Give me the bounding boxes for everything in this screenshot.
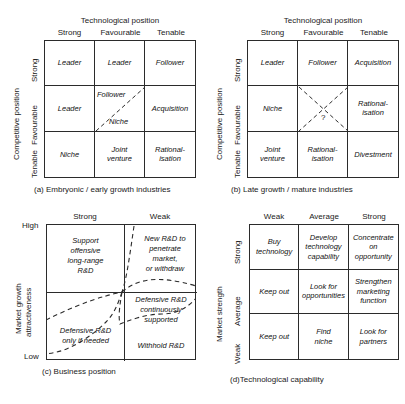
panel-d-cell-2-2: Look for partners bbox=[349, 314, 398, 359]
panel-c-band-line-0: Defensive R&D bbox=[125, 295, 197, 305]
panel-b-row-header-0: Strong bbox=[233, 58, 242, 82]
panel-a-col-header-0: Strong bbox=[44, 28, 95, 37]
panel-d-cell-2-0: Keep out bbox=[250, 314, 299, 359]
panel-c-bl-line-1: only if needed bbox=[47, 336, 124, 346]
panel-c-tl-line-1: offensive bbox=[47, 246, 124, 256]
panel-b-row-header-1: Favourable bbox=[233, 105, 242, 145]
panel-c-band-line-1: continuously bbox=[125, 305, 197, 315]
panel-a-x-axis-title: Technological position bbox=[44, 16, 196, 25]
panel-b-cell-2-1: Rational- isation bbox=[298, 132, 348, 177]
panel-c-tr-line-3: or withdraw bbox=[133, 264, 197, 274]
panel-a-cell-2-1: Joint venture bbox=[95, 132, 145, 177]
panel-d-row-header-0: Strong bbox=[233, 240, 242, 264]
panel-a-cell-2-0: Niche bbox=[45, 132, 95, 177]
panel-d-cell-0-2: Concentrate on opportunity bbox=[349, 225, 398, 270]
panel-d-col-header-1: Average bbox=[299, 212, 349, 221]
panel-a-split-lower-label: Niche bbox=[109, 117, 128, 126]
panel-a-col-header-2: Tenable bbox=[146, 28, 196, 37]
panel-b-matrix: Leader Follower Acquisition Niche ? Rati… bbox=[247, 40, 399, 178]
panel-d-caption: (d)Technological capability bbox=[230, 375, 324, 384]
panel-b-caption: (b) Late growth / mature industries bbox=[231, 185, 353, 194]
panel-c-matrix: Support offensive long-range R&D New R&D… bbox=[46, 224, 196, 360]
panel-b-col-header-1: Favourable bbox=[298, 28, 349, 37]
panel-a-matrix: Leader Leader Follower Leader Follower N… bbox=[44, 40, 196, 178]
panel-b-cell-2-0: Joint venture bbox=[248, 132, 298, 177]
panel-c-quadrant-top-left: Support offensive long-range R&D bbox=[47, 225, 125, 293]
panel-b-row-header-2: Tenable bbox=[233, 150, 242, 178]
panel-c-tl-line-2: long-range bbox=[47, 256, 124, 266]
panel-b-cell-1-2: Rational- isation bbox=[348, 86, 398, 131]
panel-c-tl-line-3: R&D bbox=[47, 266, 124, 276]
panel-d-row-header-2: Weak bbox=[233, 344, 242, 364]
panel-c-br-line-0: Withhold R&D bbox=[125, 341, 197, 351]
panel-d: Weak Average Strong Market strength Stro… bbox=[203, 202, 405, 404]
panel-c-y-axis-title-line1: Market growth bbox=[14, 283, 23, 334]
panel-b-col-header-0: Strong bbox=[247, 28, 298, 37]
panel-a-cell-1-1-split: Follower Niche bbox=[95, 86, 145, 131]
panel-c-bl-line-0: Defensive R&D bbox=[47, 326, 124, 336]
panel-a-cell-2-2: Rational- isation bbox=[145, 132, 195, 177]
panel-b-col-header-2: Tenable bbox=[349, 28, 399, 37]
panel-a-cell-0-1: Leader bbox=[95, 41, 145, 86]
panel-b-cell-0-1: Follower bbox=[298, 41, 348, 86]
panel-b-cell-0-0: Leader bbox=[248, 41, 298, 86]
panel-c-col-header-1: Weak bbox=[124, 212, 196, 221]
panel-c-y-tick-low: Low bbox=[24, 352, 39, 361]
panel-c-tr-line-1: penetrate bbox=[133, 244, 197, 254]
panel-d-row-header-1: Average bbox=[233, 296, 242, 326]
panel-c-quadrant-bottom-right: Defensive R&D continuously supported Wit… bbox=[125, 293, 197, 361]
panel-b-cell-2-2: Divestment bbox=[348, 132, 398, 177]
panel-b-cell-1-0: Niche bbox=[248, 86, 298, 131]
panel-c-y-tick-high: High bbox=[22, 221, 38, 230]
panel-a-y-axis-title: Competitive position bbox=[12, 88, 21, 160]
panel-c-band-line-2: supported bbox=[125, 315, 197, 325]
panel-a-col-header-1: Favourable bbox=[95, 28, 146, 37]
panel-b-cell-0-2: Acquisition bbox=[348, 41, 398, 86]
panel-a-row-header-1: Favourable bbox=[30, 105, 39, 145]
panel-a-split-upper-label: Follower bbox=[97, 90, 125, 99]
panel-a: Technological position Strong Favourable… bbox=[0, 0, 202, 202]
panel-c-quadrant-top-right: New R&D to penetrate market, or withdraw bbox=[125, 225, 197, 293]
panel-c-caption: (c) Business position bbox=[42, 367, 116, 376]
panel-a-cell-1-2: Acquisition bbox=[145, 86, 195, 131]
panel-c-quadrant-bottom-left: Defensive R&D only if needed bbox=[47, 293, 125, 361]
panel-d-cell-1-2: Strengthen marketing function bbox=[349, 270, 398, 315]
panel-c-tr-line-2: market, bbox=[133, 254, 197, 264]
panel-d-y-axis-title: Market strength bbox=[215, 286, 224, 342]
panel-d-matrix: Buy technology Develop technology capabi… bbox=[249, 224, 399, 360]
panel-a-cell-1-0: Leader bbox=[45, 86, 95, 131]
panel-c: Strong Weak Market growth attractiveness… bbox=[0, 202, 202, 404]
panel-d-cell-0-1: Develop technology capability bbox=[299, 225, 348, 270]
panel-a-row-header-0: Strong bbox=[30, 58, 39, 82]
panel-d-cell-1-0: Keep out bbox=[250, 270, 299, 315]
panel-b-x-axis-title: Technological position bbox=[247, 16, 399, 25]
panel-d-col-header-2: Strong bbox=[349, 212, 399, 221]
panel-d-cell-1-1: Look for opportunities bbox=[299, 270, 348, 315]
panel-a-cell-0-2: Follower bbox=[145, 41, 195, 86]
figure-sheet: Technological position Strong Favourable… bbox=[0, 0, 405, 404]
panel-b-y-axis-title: Competitive position bbox=[215, 88, 224, 160]
panel-a-row-header-2: Tenable bbox=[30, 150, 39, 178]
panel-b-cross-marking-icon bbox=[298, 86, 349, 132]
panel-d-cell-2-1: Find niche bbox=[299, 314, 348, 359]
panel-d-cell-0-0: Buy technology bbox=[250, 225, 299, 270]
panel-a-caption: (a) Embryonic / early growth industries bbox=[34, 185, 171, 194]
panel-b-cell-1-1-uncertain: ? bbox=[298, 86, 348, 131]
panel-c-tl-line-0: Support bbox=[47, 236, 124, 246]
panel-b: Technological position Strong Favourable… bbox=[203, 0, 405, 202]
panel-d-col-header-0: Weak bbox=[249, 212, 299, 221]
panel-c-tr-line-0: New R&D to bbox=[133, 234, 197, 244]
panel-a-cell-0-0: Leader bbox=[45, 41, 95, 86]
panel-c-y-axis-title-line2: attractiveness bbox=[24, 288, 33, 337]
panel-c-col-header-0: Strong bbox=[46, 212, 124, 221]
panel-b-question-mark-label: ? bbox=[321, 113, 325, 123]
